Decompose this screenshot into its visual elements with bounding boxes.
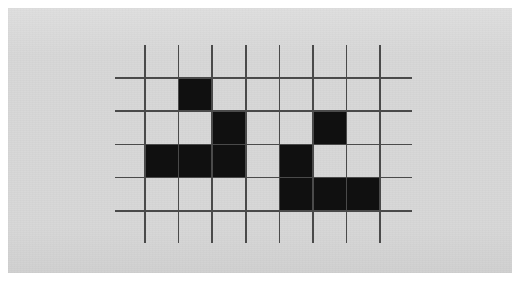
screenshot-root [0, 0, 527, 288]
grid-cell-filled[interactable] [279, 144, 313, 177]
grid-cell-filled[interactable] [145, 144, 179, 177]
grid-cell-filled[interactable] [212, 111, 246, 144]
grid-cell-filled[interactable] [212, 144, 246, 177]
grid-cell-filled[interactable] [347, 178, 381, 211]
grid-figure [0, 0, 527, 288]
grid-cell-filled[interactable] [179, 144, 213, 177]
grid-cell-filled[interactable] [279, 178, 313, 211]
grid-cell-filled[interactable] [313, 178, 347, 211]
grid-lines-group [115, 45, 412, 243]
grid-cell-filled[interactable] [313, 111, 347, 144]
grid-svg [0, 0, 527, 288]
grid-cell-filled[interactable] [179, 78, 213, 111]
